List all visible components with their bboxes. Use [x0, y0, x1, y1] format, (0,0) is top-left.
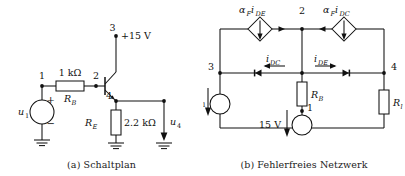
- node-1-dot: [300, 109, 304, 113]
- voltage-source-15v-body: [292, 115, 312, 135]
- voltage-source-u1-body: [210, 94, 230, 114]
- voltage-source-15v-arrow-head: [284, 129, 290, 138]
- re-name-label: R E: [84, 117, 98, 131]
- svg-text:1: 1: [203, 101, 206, 109]
- svg-text:R: R: [310, 89, 318, 100]
- ground-source: [34, 140, 50, 146]
- resistor-rb-body: [56, 81, 84, 91]
- panel-schaltplan: 3 +15 V 1 kΩ R B 1 2 4: [0, 0, 203, 176]
- wire-collector: [105, 72, 116, 84]
- re-value-label: 2.2 kΩ: [124, 117, 156, 128]
- rb-name-label: R B: [63, 93, 77, 107]
- node-4-label: 4: [391, 61, 397, 72]
- source-minus-sign: −: [47, 118, 55, 129]
- svg-text:R: R: [392, 97, 400, 108]
- svg-text:R: R: [63, 93, 71, 104]
- ground-output: [156, 143, 172, 149]
- svg-text:α: α: [239, 4, 246, 15]
- supply-voltage-label: +15 V: [121, 30, 151, 41]
- resistor-rb-body: [297, 82, 307, 106]
- resistor-re-body: [111, 110, 121, 135]
- current-de-label: i DE: [314, 53, 328, 67]
- caption-b: (b) Fehlerfreies Netzwerk: [203, 159, 405, 170]
- svg-text:u: u: [18, 106, 24, 117]
- svg-text:DE: DE: [317, 59, 328, 67]
- node-4-dot: [382, 71, 386, 75]
- source-u1-arrow-head: [205, 108, 211, 117]
- source-plus-sign: +: [47, 94, 55, 105]
- panel-netzwerk: α F i DE α F i DC 2 3 4: [203, 0, 405, 176]
- node-3-label: 3: [109, 22, 115, 33]
- node-2-label: 2: [299, 5, 305, 16]
- source-u1-label: u 1: [203, 95, 206, 109]
- resistor-rl-body: [379, 90, 389, 114]
- svg-text:B: B: [71, 99, 77, 107]
- svg-text:α: α: [323, 4, 330, 15]
- node-3-dot: [114, 34, 118, 38]
- svg-text:R: R: [84, 117, 92, 128]
- rl-name-label: R l: [392, 97, 403, 111]
- node-4-label: 4: [106, 90, 112, 101]
- figure-root: 3 +15 V 1 kΩ R B 1 2 4: [0, 0, 405, 176]
- svg-text:1: 1: [25, 112, 29, 120]
- caption-a: (a) Schaltplan: [0, 159, 203, 170]
- node-3-dot: [218, 71, 222, 75]
- svg-text:DC: DC: [269, 59, 280, 67]
- node-2-label: 2: [93, 70, 99, 81]
- diode-dc: [255, 70, 262, 77]
- svg-text:B: B: [318, 95, 324, 103]
- ground-re: [108, 143, 124, 149]
- current-left-direction-arrow: [279, 26, 286, 32]
- schematic-a: 3 +15 V 1 kΩ R B 1 2 4: [0, 0, 203, 152]
- svg-text:i: i: [251, 4, 254, 15]
- current-source-right-label: α F i DC: [323, 4, 350, 18]
- svg-text:DC: DC: [339, 10, 350, 18]
- node-2-dot: [94, 84, 98, 88]
- svg-text:i: i: [335, 4, 338, 15]
- voltage-source-15v-label: 15 V: [259, 119, 281, 130]
- svg-text:i: i: [314, 53, 317, 64]
- rb-name-label: R B: [310, 89, 324, 103]
- svg-text:i: i: [266, 53, 269, 64]
- source-u1-label: u 1: [18, 106, 29, 120]
- current-right-direction-arrow: [319, 26, 326, 32]
- current-source-left-label: α F i DE: [239, 4, 266, 18]
- node-1-label: 1: [39, 70, 45, 81]
- svg-text:E: E: [92, 123, 98, 131]
- svg-text:l: l: [401, 103, 403, 111]
- schematic-b: α F i DE α F i DC 2 3 4: [203, 0, 405, 152]
- current-de-arrow-head: [330, 63, 337, 69]
- diode-de: [343, 70, 350, 77]
- svg-text:u: u: [170, 116, 176, 127]
- svg-text:4: 4: [177, 122, 181, 130]
- output-voltage-label: u 4: [170, 116, 181, 130]
- node-1-label: 1: [307, 102, 313, 113]
- rb-value-label: 1 kΩ: [59, 67, 82, 78]
- svg-text:DE: DE: [255, 10, 266, 18]
- node-3-label: 3: [208, 61, 214, 72]
- output-arrow-head: [161, 133, 168, 142]
